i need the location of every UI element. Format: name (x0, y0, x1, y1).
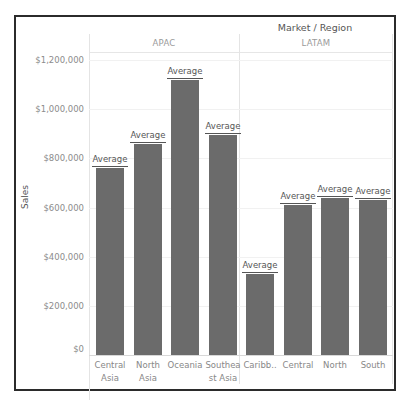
x-tick-label: Caribb.. (241, 359, 279, 372)
y-axis-title: Sales (20, 185, 30, 209)
bar-north[interactable] (321, 198, 349, 355)
gridline (89, 109, 393, 110)
bar-caribbean[interactable] (246, 274, 274, 355)
average-reference-line (355, 198, 391, 199)
y-tick-label: $200,000 (43, 301, 84, 311)
y-tick-label: $1,000,000 (35, 104, 84, 114)
average-reference-line (130, 142, 166, 143)
bar-oceania[interactable] (171, 80, 199, 355)
average-label: Average (356, 186, 391, 196)
x-axis-baseline (89, 355, 393, 356)
x-tick-label: Central Asia (91, 359, 129, 385)
y-tick-label: $600,000 (43, 203, 84, 213)
average-reference-line (92, 166, 128, 167)
pane-label-latam: LATAM (240, 38, 392, 48)
bar-north-asia[interactable] (134, 144, 162, 355)
header-divider (89, 52, 393, 53)
x-tick-label: Central (279, 359, 317, 372)
average-reference-line (317, 196, 353, 197)
y-tick-label: $800,000 (43, 153, 84, 163)
plot-left-edge (89, 34, 90, 400)
x-tick-label: South (354, 359, 392, 372)
y-tick-label: $400,000 (43, 252, 84, 262)
average-reference-line (280, 203, 316, 204)
x-tick-label: Oceania (166, 359, 204, 372)
chart-title: Market / Region (240, 22, 390, 33)
average-label: Average (93, 154, 128, 164)
pane-divider (239, 34, 240, 384)
x-tick-label: North (316, 359, 354, 372)
average-reference-line (167, 78, 203, 79)
average-reference-line (205, 133, 241, 134)
x-tick-label: Southea st Asia (204, 359, 242, 385)
plot-right-edge (392, 34, 393, 384)
average-label: Average (281, 191, 316, 201)
average-label: Average (318, 184, 353, 194)
average-reference-line (242, 272, 278, 273)
pane-label-apac: APAC (89, 38, 239, 48)
gridline (89, 60, 393, 61)
average-label: Average (206, 121, 241, 131)
x-tick-label: North Asia (129, 359, 167, 385)
average-label: Average (243, 260, 278, 270)
average-label: Average (168, 66, 203, 76)
y-tick-label: $0 (73, 344, 84, 354)
bar-southeast-asia[interactable] (209, 135, 237, 355)
bar-central[interactable] (284, 205, 312, 355)
average-label: Average (131, 130, 166, 140)
bar-south[interactable] (359, 200, 387, 355)
y-tick-label: $1,200,000 (35, 55, 84, 65)
bar-central-asia[interactable] (96, 168, 124, 355)
